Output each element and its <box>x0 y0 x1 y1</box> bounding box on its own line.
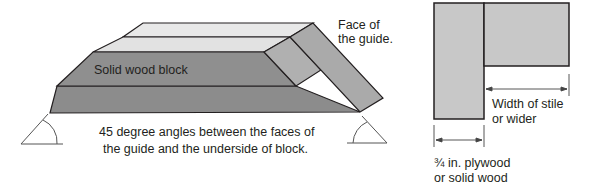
top-face-front <box>93 37 290 52</box>
block-label: Solid wood block <box>94 63 189 77</box>
caption-line-1: 45 degree angles between the faces of <box>99 125 315 139</box>
angle-left-icon <box>21 114 63 144</box>
rail-panel <box>484 3 569 66</box>
face-label-1: Face of <box>338 18 380 32</box>
width-dimension <box>486 74 569 96</box>
thickness-dimension <box>434 125 484 147</box>
width-label-1: Width of stile <box>492 97 564 111</box>
width-label-2: or wider <box>492 112 536 126</box>
angle-right-icon <box>347 116 387 143</box>
face-label-2: the guide. <box>338 32 393 46</box>
thickness-label-2: or solid wood <box>434 171 508 185</box>
base-slab <box>50 86 360 113</box>
guide-diagram: Solid wood block Face of the guide. 45 d… <box>0 0 589 189</box>
stile-panel <box>434 3 484 119</box>
caption-line-2: the guide and the underside of block. <box>103 142 308 156</box>
thickness-label-1: ¾ in. plywood <box>434 156 510 170</box>
top-face-back <box>123 23 313 37</box>
